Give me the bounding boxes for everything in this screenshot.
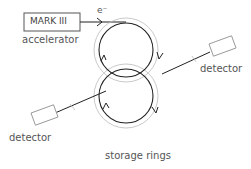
left-detector-box [31, 105, 58, 125]
top-ring-outer [94, 18, 158, 82]
storage-ring-diagram: MARK III accelerator e⁻ detector detecto… [0, 0, 251, 169]
rings-label: storage rings [105, 151, 171, 161]
beam-label: e⁻ [97, 6, 107, 15]
detector-left-label: detector [9, 133, 51, 143]
accelerator-box-label: MARK III [30, 17, 67, 26]
accelerator-label: accelerator [22, 35, 79, 45]
right-detector-box [209, 36, 236, 56]
bottom-ring-arrow-left-icon [103, 103, 109, 109]
bottom-ring-outer [94, 64, 158, 128]
top-ring-arrow-left-icon [101, 55, 106, 61]
detector-right-label: detector [200, 64, 242, 74]
left-detector-beam-line [55, 91, 106, 113]
